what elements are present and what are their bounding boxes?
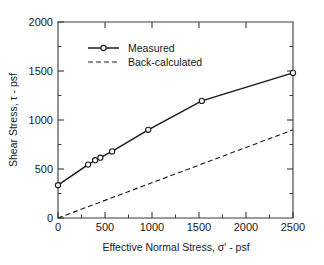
y-tick-label: 500 (35, 163, 53, 175)
x-tick-label: 1000 (140, 221, 164, 233)
y-tick-label: 0 (47, 212, 53, 224)
data-point-marker (93, 158, 98, 163)
data-point-marker (110, 149, 115, 154)
data-point-marker (86, 162, 91, 167)
x-tick-label: 500 (96, 221, 114, 233)
y-tick-label: 2000 (29, 16, 53, 28)
shear-stress-vs-normal-stress-chart: 0 500 1000 1500 2000 2500 0 500 1000 150… (0, 0, 324, 265)
x-tick-label: 2000 (234, 221, 258, 233)
y-tick-label: 1000 (29, 114, 53, 126)
data-point-marker (98, 155, 103, 160)
x-axis-title: Effective Normal Stress, σ' - psf (102, 241, 249, 253)
legend-label-measured: Measured (128, 42, 175, 54)
y-axis-title: Shear Stress, τ - psf (7, 73, 19, 167)
y-tick-label: 1500 (29, 65, 53, 77)
x-tick-label: 0 (55, 221, 61, 233)
x-tick-label: 1500 (187, 221, 211, 233)
data-point-marker (290, 70, 295, 75)
data-point-marker (146, 127, 151, 132)
x-tick-label: 2500 (281, 221, 305, 233)
chart-figure: 0 500 1000 1500 2000 2500 0 500 1000 150… (0, 0, 324, 265)
data-point-marker (55, 183, 60, 188)
legend-label-back-calculated: Back-calculated (128, 56, 202, 68)
legend-marker-measured (101, 45, 106, 50)
data-point-marker (199, 98, 204, 103)
